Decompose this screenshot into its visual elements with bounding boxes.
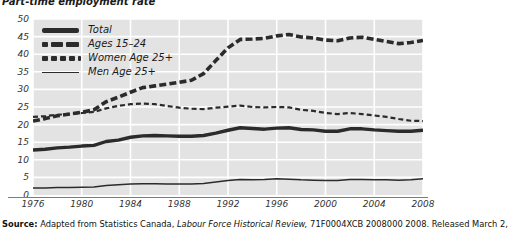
legend-label-ages-15-24: Ages 15–24	[88, 38, 146, 49]
x-tick-label: 1988	[168, 199, 191, 209]
legend-key-ages-15-24-icon	[40, 38, 81, 50]
legend-label-men-25plus: Men Age 25+	[88, 66, 156, 77]
y-tick-label: 30	[3, 84, 29, 94]
legend-item-total: Total	[40, 23, 173, 36]
y-tick-label: 50	[3, 14, 29, 24]
x-tick-label: 2004	[363, 199, 386, 209]
x-axis: 197619801984198819921996200020042008	[33, 199, 423, 213]
y-tick-label: 10	[3, 155, 29, 165]
x-tick-label: 1976	[22, 199, 45, 209]
chart-title: Part-time employment rate	[2, 0, 155, 7]
y-tick-label: 20	[3, 120, 29, 130]
source-publication: Labour Force Historical Review,	[177, 219, 308, 229]
source-text-1: Adapted from Statistics Canada,	[38, 219, 177, 229]
legend-label-women-25plus: Women Age 25+	[88, 52, 173, 63]
legend-key-women-25plus-icon	[40, 52, 81, 64]
source-note: Source: Adapted from Statistics Canada, …	[2, 219, 440, 229]
x-tick-label: 1980	[70, 199, 93, 209]
x-tick-label: 1992	[217, 199, 240, 209]
x-tick-label: 2000	[314, 199, 337, 209]
y-tick-label: 35	[3, 67, 29, 77]
y-tick-label: 25	[3, 102, 29, 112]
legend-key-men-25plus-icon	[40, 66, 81, 78]
legend-key-total-icon	[40, 24, 81, 36]
y-tick-label: 45	[3, 32, 29, 42]
chart-legend: Total Ages 15–24 Women Age 25+	[40, 23, 173, 79]
x-axis-rule	[8, 197, 428, 198]
y-tick-label: 40	[3, 49, 29, 59]
source-prefix: Source:	[2, 219, 38, 229]
legend-item-men-25plus: Men Age 25+	[40, 65, 173, 78]
legend-label-total: Total	[88, 24, 112, 35]
x-tick-label: 1996	[265, 199, 288, 209]
x-tick-label: 2008	[412, 199, 435, 209]
legend-item-ages-15-24: Ages 15–24	[40, 37, 173, 50]
y-tick-label: 15	[3, 137, 29, 147]
y-tick-label: 5	[3, 172, 29, 182]
legend-item-women-25plus: Women Age 25+	[40, 51, 173, 64]
x-tick-label: 1984	[119, 199, 142, 209]
y-axis: 50454035302520151050	[0, 19, 29, 195]
source-text-2: 71F0004XCB 2008000 2008. Released March …	[307, 219, 507, 229]
